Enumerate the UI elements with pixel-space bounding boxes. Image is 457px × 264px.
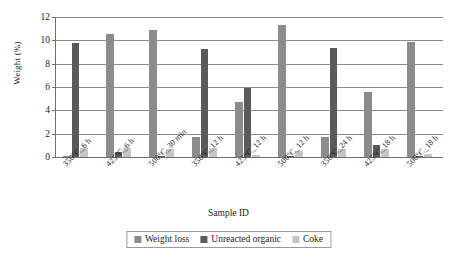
plot-area: 024681012 xyxy=(55,17,443,158)
bar xyxy=(235,102,243,157)
y-axis-tick-label: 10 xyxy=(41,35,51,45)
bar xyxy=(201,49,209,158)
legend-label: Coke xyxy=(303,234,323,244)
legend-label: Unreacted organic xyxy=(211,234,281,244)
y-axis-tick-label: 8 xyxy=(45,59,50,69)
bar xyxy=(149,30,157,157)
y-axis-tick xyxy=(52,157,56,158)
chart-legend: Weight lossUnreacted organicCoke xyxy=(126,231,331,248)
bar-group xyxy=(99,17,142,157)
bar xyxy=(278,25,286,157)
y-axis-title: Weight (%) xyxy=(12,18,22,108)
legend-item: Coke xyxy=(292,234,323,244)
y-axis-tick-label: 2 xyxy=(45,129,50,139)
bar-chart-figure: Weight (%) 024681012 350°C_6 h425°C_6 h5… xyxy=(0,0,457,264)
legend-item: Unreacted organic xyxy=(200,234,281,244)
x-axis-title: Sample ID xyxy=(0,208,457,218)
y-axis-tick-label: 0 xyxy=(45,152,50,162)
legend-swatch-icon xyxy=(200,236,207,243)
y-axis-tick-label: 6 xyxy=(45,82,50,92)
bar xyxy=(72,43,80,157)
legend-item: Weight loss xyxy=(134,234,189,244)
bar xyxy=(364,92,372,157)
bar xyxy=(330,48,338,157)
bar xyxy=(106,34,114,157)
bar xyxy=(407,42,415,158)
legend-swatch-icon xyxy=(292,236,299,243)
y-axis-tick-label: 4 xyxy=(45,105,50,115)
legend-swatch-icon xyxy=(134,236,141,243)
bar xyxy=(252,155,260,157)
bar xyxy=(424,154,432,157)
bar-group xyxy=(56,17,99,157)
legend-label: Weight loss xyxy=(145,234,189,244)
y-axis-tick-label: 12 xyxy=(41,12,51,22)
